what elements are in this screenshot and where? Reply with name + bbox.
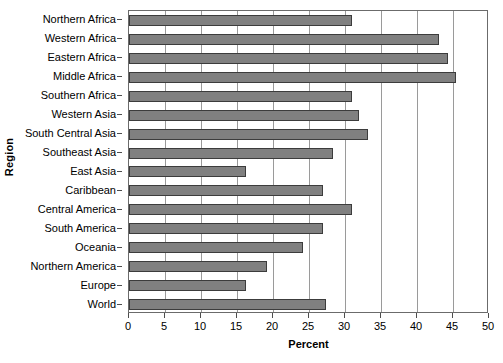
bar [129,223,323,234]
gridline [453,11,454,312]
bar [129,15,352,26]
y-axis-title-text: Region [3,137,15,175]
y-tick-label: Middle Africa [53,69,116,83]
x-tick-label: 50 [468,320,503,332]
y-tick-label: Oceania [75,240,116,254]
x-tick-mark [128,313,129,318]
y-tick-mark [117,171,122,172]
y-tick-label: Western Africa [45,31,116,45]
x-tick-label: 35 [360,320,400,332]
x-tick-label: 0 [108,320,148,332]
y-tick-label: South Central Asia [25,126,116,140]
y-tick-mark [117,133,122,134]
bar [129,166,246,177]
y-tick-mark [117,38,122,39]
y-tick-label: Northern Africa [43,12,116,26]
bar [129,185,323,196]
x-tick-label: 5 [144,320,184,332]
x-tick-label: 25 [288,320,328,332]
bar [129,91,352,102]
bar [129,242,303,253]
y-tick-mark [117,209,122,210]
y-tick-label: Caribbean [65,183,116,197]
x-tick-mark [200,313,201,318]
y-tick-mark [117,152,122,153]
x-tick-mark [416,313,417,318]
x-tick-mark [164,313,165,318]
y-tick-mark [117,228,122,229]
bar [129,34,439,45]
y-tick-mark [117,285,122,286]
y-tick-label: World [87,297,116,311]
y-axis-tick-labels: Northern AfricaWestern AfricaEastern Afr… [18,10,122,313]
y-tick-label: East Asia [70,164,116,178]
bar [129,261,267,272]
y-tick-label: Europe [81,278,116,292]
y-tick-label: Eastern Africa [48,50,116,64]
x-tick-label: 20 [252,320,292,332]
y-tick-mark [117,247,122,248]
bar [129,280,246,291]
x-tick-mark [488,313,489,318]
x-tick-mark [344,313,345,318]
bar [129,110,359,121]
x-tick-label: 15 [216,320,256,332]
y-tick-mark [117,114,122,115]
plot-area [128,10,488,313]
y-tick-mark [117,190,122,191]
bar [129,129,368,140]
y-tick-label: Western Asia [51,107,116,121]
y-tick-mark [117,95,122,96]
x-tick-label: 10 [180,320,220,332]
x-tick-label: 30 [324,320,364,332]
y-tick-mark [117,57,122,58]
x-tick-label: 45 [432,320,472,332]
y-tick-label: South America [44,221,116,235]
bar [129,299,326,310]
y-tick-mark [117,266,122,267]
y-tick-label: Southern Africa [41,88,116,102]
y-tick-label: Central America [38,202,116,216]
x-tick-label: 40 [396,320,436,332]
x-tick-mark [272,313,273,318]
y-tick-mark [117,76,122,77]
x-tick-mark [308,313,309,318]
bar [129,204,352,215]
y-axis-title: Region [0,0,18,313]
x-tick-mark [380,313,381,318]
y-tick-label: Southeast Asia [43,145,116,159]
x-tick-mark [236,313,237,318]
bar [129,53,448,64]
y-tick-mark [117,304,122,305]
bar-chart-figure: Region Northern AfricaWestern AfricaEast… [0,0,503,363]
bar [129,72,456,83]
y-tick-label: Northern America [30,259,116,273]
x-axis-title: Percent [128,338,489,350]
bar [129,148,333,159]
y-tick-mark [117,19,122,20]
x-tick-mark [452,313,453,318]
